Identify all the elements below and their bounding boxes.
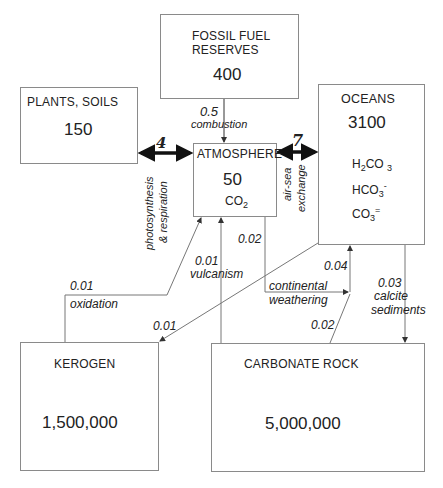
vulcanism-label: vulcanism (190, 267, 243, 281)
carbonate-rock-label: CARBONATE ROCK (244, 357, 359, 371)
oxidation-value: 0.01 (70, 279, 93, 293)
photosynthesis-label-2: & respiration (157, 181, 169, 243)
ocean-to-kerogen-value: 0.01 (153, 319, 176, 333)
air-sea-label-2: exchange (295, 164, 307, 212)
ocean-species-hco3: HCO3- (352, 181, 387, 199)
ocean-species-co3: CO3= (352, 205, 380, 223)
carbonate-rock-box: CARBONATE ROCK 5,000,000 (211, 343, 425, 472)
vulcanism-value: 0.01 (195, 254, 218, 268)
calcite-label-1: calcite (374, 289, 408, 303)
fossil-fuel-label-1: FOSSIL FUEL (192, 29, 270, 43)
oxidation-label: oxidation (70, 297, 118, 311)
calcite-label-2: sediments (371, 303, 426, 317)
oceans-box: OCEANS 3100 H2CO 3 HCO3- CO3= (318, 84, 425, 245)
plants-soils-box: PLANTS, SOILS 150 (20, 87, 138, 164)
plants-soils-value: 150 (64, 120, 92, 140)
oceans-value: 3100 (348, 113, 386, 133)
kerogen-value: 1,500,000 (42, 413, 118, 433)
air-sea-value: 7 (292, 131, 303, 150)
weathering-atm-value: 0.02 (238, 232, 261, 246)
atmosphere-box: ATMOSPHERE 50 CO2 (193, 143, 277, 217)
photosynthesis-label-1: photosynthesis (143, 177, 155, 250)
kerogen-box: KEROGEN 1,500,000 (20, 342, 159, 471)
continental-weathering-label-1: continental (269, 279, 327, 293)
fossil-fuel-value: 400 (213, 65, 241, 85)
atmosphere-label: ATMOSPHERE (197, 147, 282, 161)
atmosphere-species: CO2 (225, 194, 248, 210)
plants-soils-label: PLANTS, SOILS (27, 95, 118, 109)
atmosphere-value: 50 (223, 170, 242, 190)
kerogen-label: KEROGEN (54, 357, 115, 371)
photosynthesis-value: 4 (156, 134, 166, 152)
weathering-to-ocean-value: 0.04 (324, 259, 347, 273)
ocean-species-h2co3: H2CO 3 (352, 157, 392, 173)
oceans-label: OCEANS (341, 92, 395, 106)
calcite-value: 0.03 (378, 276, 401, 290)
combustion-value: 0.5 (200, 104, 218, 119)
air-sea-label-1: air-sea (281, 168, 293, 201)
continental-weathering-label-2: weathering (269, 293, 328, 307)
carbonate-rock-value: 5,000,000 (265, 414, 341, 434)
fossil-fuel-label-2: RESERVES (192, 43, 259, 57)
fossil-fuel-box: FOSSIL FUEL RESERVES 400 (160, 14, 299, 99)
carbonate-weathering-value: 0.02 (311, 318, 334, 332)
combustion-label: combustion (191, 118, 247, 130)
